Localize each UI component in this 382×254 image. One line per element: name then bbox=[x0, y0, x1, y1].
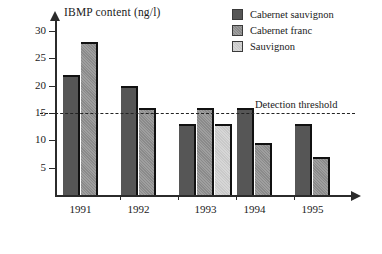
detection-threshold-label: Detection threshold bbox=[255, 99, 338, 110]
y-tick-label-25: 25 bbox=[18, 52, 46, 63]
bar-group-1993 bbox=[179, 20, 235, 195]
y-tick-10 bbox=[49, 140, 57, 141]
bar-1994-cabernet-sauvignon bbox=[237, 108, 254, 196]
bar-1991-cabernet-sauvignon bbox=[63, 75, 80, 195]
bar-1995-cabernet-franc bbox=[313, 157, 330, 195]
legend-item-cabernet-sauvignon: Cabernet sauvignon bbox=[232, 9, 334, 20]
bar-1994-cabernet-franc bbox=[255, 143, 272, 195]
x-tick-label-1992: 1992 bbox=[109, 204, 169, 215]
x-tick-label-1991: 1991 bbox=[51, 204, 111, 215]
x-tick-label-1994: 1994 bbox=[225, 204, 285, 215]
y-tick-label-20: 20 bbox=[18, 80, 46, 91]
legend-label: Sauvignon bbox=[250, 41, 295, 52]
bar-group-1992 bbox=[121, 20, 177, 195]
y-tick-label-10: 10 bbox=[18, 134, 46, 145]
bar-1992-cabernet-franc bbox=[139, 108, 156, 196]
x-tick-1993 bbox=[236, 195, 237, 200]
legend-swatch-icon bbox=[232, 25, 243, 36]
legend-item-sauvignon: Sauvignon bbox=[232, 41, 334, 52]
y-tick-label-5: 5 bbox=[18, 162, 46, 173]
y-axis-title: IBMP content (ng/l) bbox=[64, 6, 161, 18]
legend: Cabernet sauvignonCabernet francSauvigno… bbox=[232, 9, 334, 57]
y-tick-20 bbox=[49, 86, 57, 87]
y-tick-30 bbox=[49, 31, 57, 32]
bar-1992-cabernet-sauvignon bbox=[121, 86, 138, 195]
x-tick-1994 bbox=[294, 195, 295, 200]
bar-1993-sauvignon bbox=[215, 124, 232, 195]
x-axis-line bbox=[55, 195, 351, 197]
bar-1993-cabernet-franc bbox=[197, 108, 214, 196]
y-tick-5 bbox=[49, 168, 57, 169]
y-tick-label-30: 30 bbox=[18, 25, 46, 36]
bar-1991-cabernet-franc bbox=[81, 42, 98, 195]
legend-item-cabernet-franc: Cabernet franc bbox=[232, 25, 334, 36]
bar-1995-cabernet-sauvignon bbox=[295, 124, 312, 195]
legend-label: Cabernet sauvignon bbox=[250, 9, 334, 20]
chart-figure: IBMP content (ng/l) 51015202530 Detectio… bbox=[0, 0, 382, 254]
legend-label: Cabernet franc bbox=[250, 25, 312, 36]
bar-1993-cabernet-sauvignon bbox=[179, 124, 196, 195]
x-tick-1992 bbox=[178, 195, 179, 200]
x-tick-1995 bbox=[352, 195, 353, 200]
detection-threshold-line bbox=[40, 113, 355, 114]
x-tick-1991 bbox=[120, 195, 121, 200]
legend-swatch-icon bbox=[232, 41, 243, 52]
y-tick-25 bbox=[49, 58, 57, 59]
bar-group-1991 bbox=[63, 20, 119, 195]
x-tick-label-1995: 1995 bbox=[283, 204, 343, 215]
legend-swatch-icon bbox=[232, 9, 243, 20]
